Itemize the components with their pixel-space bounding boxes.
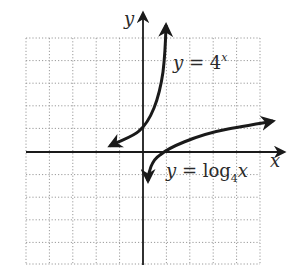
exponential-label: y = 4x: [172, 51, 228, 73]
logarithmic-label-text: y = log: [165, 160, 231, 181]
y-axis-label: y: [123, 8, 135, 29]
exponential-label-exponent: x: [221, 51, 228, 64]
logarithmic-label-base: 4: [231, 172, 238, 185]
logarithmic-label: y = log4x: [165, 160, 248, 185]
x-axis-label: x: [270, 150, 280, 171]
exponential-curve: [110, 25, 166, 146]
logarithmic-label-arg: x: [238, 160, 248, 181]
graph: y x y = 4x y = log4x: [0, 0, 293, 270]
exponential-label-text: y = 4: [172, 52, 221, 73]
